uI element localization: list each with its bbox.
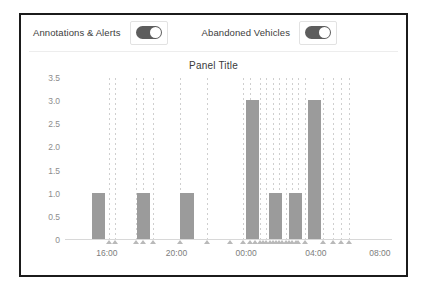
annotation-marker-icon[interactable] xyxy=(140,240,146,244)
annotation-marker-icon[interactable] xyxy=(295,240,301,244)
control-group-annotations-alerts: Annotations & Alerts xyxy=(33,21,168,45)
annotation-marker-icon[interactable] xyxy=(112,240,118,244)
y-axis-tick-label: 2.5 xyxy=(48,119,60,129)
chart-bar[interactable] xyxy=(180,193,193,239)
annotation-gridline xyxy=(349,78,350,239)
y-axis-tick-label: 0 xyxy=(55,235,60,245)
chart-bar[interactable] xyxy=(137,193,150,239)
plot-area xyxy=(65,78,392,240)
annotations-alerts-toggle[interactable] xyxy=(130,21,168,45)
chart-bar[interactable] xyxy=(269,193,282,239)
toggle-knob xyxy=(319,27,330,38)
chart-bar[interactable] xyxy=(92,193,105,239)
annotation-marker-icon[interactable] xyxy=(240,240,246,244)
control-group-abandoned-vehicles: Abandoned Vehicles xyxy=(202,21,337,45)
y-axis-tick-label: 3.0 xyxy=(48,96,60,106)
chart-bar[interactable] xyxy=(289,193,302,239)
annotation-marker-icon[interactable] xyxy=(338,240,344,244)
annotation-gridline xyxy=(341,78,342,239)
annotation-gridline xyxy=(260,78,261,239)
annotation-gridline xyxy=(109,78,110,239)
toggle-track xyxy=(136,26,162,39)
y-axis-tick-label: 1.0 xyxy=(48,189,60,199)
chart-panel-frame: Annotations & Alerts Abandoned Vehicles … xyxy=(19,13,408,277)
abandoned-vehicles-label: Abandoned Vehicles xyxy=(202,27,290,38)
annotation-gridline xyxy=(266,78,267,239)
y-axis-tick-label: 0.5 xyxy=(48,212,60,222)
annotation-marker-icon[interactable] xyxy=(227,240,233,244)
y-axis-tick-label: 2.0 xyxy=(48,142,60,152)
x-axis-tick-label: 00:00 xyxy=(236,248,257,258)
annotation-gridline xyxy=(207,78,208,239)
annotation-gridline xyxy=(323,78,324,239)
x-axis-tick-label: 08:00 xyxy=(369,248,390,258)
annotation-marker-icon[interactable] xyxy=(106,240,112,244)
annotation-marker-icon[interactable] xyxy=(330,240,336,244)
annotation-gridline xyxy=(115,78,116,239)
control-bar: Annotations & Alerts Abandoned Vehicles xyxy=(21,15,406,50)
chart-bar[interactable] xyxy=(246,100,259,239)
annotation-marker-icon[interactable] xyxy=(150,240,156,244)
panel-title: Panel Title xyxy=(29,60,398,71)
annotation-marker-icon[interactable] xyxy=(302,240,308,244)
annotation-gridline xyxy=(305,78,306,239)
annotation-marker-icon[interactable] xyxy=(320,240,326,244)
x-axis: 16:0020:0000:0004:0008:00 xyxy=(65,248,392,264)
annotation-marker-icon[interactable] xyxy=(177,240,183,244)
plot-wrapper: 00.51.01.52.02.53.03.5 16:0020:0000:0004… xyxy=(29,78,398,269)
x-axis-tick-label: 20:00 xyxy=(166,248,187,258)
annotation-marker-icon[interactable] xyxy=(204,240,210,244)
y-axis-tick-label: 1.5 xyxy=(48,166,60,176)
toggle-track xyxy=(305,26,331,39)
x-axis-tick-label: 04:00 xyxy=(305,248,326,258)
chart-bar[interactable] xyxy=(308,100,321,239)
annotation-marker-icon[interactable] xyxy=(346,240,352,244)
abandoned-vehicles-toggle[interactable] xyxy=(299,21,337,45)
y-axis-tick-label: 3.5 xyxy=(48,73,60,83)
annotation-gridline xyxy=(153,78,154,239)
annotation-gridline xyxy=(243,78,244,239)
x-axis-tick-label: 16:00 xyxy=(96,248,117,258)
toggle-knob xyxy=(150,27,161,38)
y-axis: 00.51.01.52.02.53.03.5 xyxy=(29,78,63,240)
annotations-alerts-label: Annotations & Alerts xyxy=(33,27,121,38)
annotation-marker-icon[interactable] xyxy=(133,240,139,244)
chart-card: Panel Title 00.51.01.52.02.53.03.5 16:00… xyxy=(29,51,398,269)
annotation-gridline xyxy=(333,78,334,239)
annotation-gridline xyxy=(286,78,287,239)
